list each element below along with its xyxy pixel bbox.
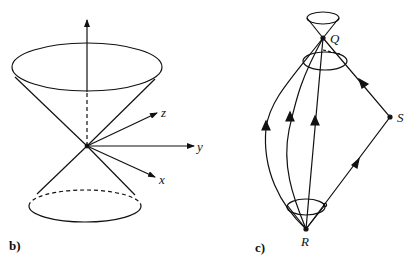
light-cone-diagram [12, 20, 194, 222]
past-cone-right-edge [87, 146, 135, 195]
panel-label-c: c) [255, 240, 265, 255]
arrow-s-to-q [359, 79, 368, 88]
arrow-straight-path [311, 116, 319, 125]
worldline-diagram [262, 12, 392, 231]
q-future-cone-rim [307, 12, 339, 24]
event-r-label: R [300, 234, 309, 249]
worldline-via-s [306, 38, 390, 229]
x-axis-label: x [158, 172, 165, 187]
panel-label-b: b) [9, 238, 21, 253]
event-s-label: S [397, 110, 404, 125]
y-axis-label: y [195, 139, 203, 154]
event-q-label: Q [330, 31, 340, 46]
past-cone-rim-back [29, 190, 141, 206]
q-future-cone-left [307, 18, 323, 38]
event-s-dot [388, 115, 392, 119]
z-axis-label: z [160, 105, 166, 120]
future-cone-left-edge [15, 77, 87, 146]
past-cone-rim-front [29, 206, 141, 222]
figure-canvas: z y x b) Q S R c) [0, 0, 411, 264]
origin-event-dot [85, 144, 89, 148]
r-future-cone-left [287, 205, 306, 229]
z-axis-arrow [87, 113, 157, 146]
past-cone-left-edge [37, 146, 87, 194]
x-axis-arrow [87, 146, 155, 177]
arrow-left-path [262, 121, 270, 130]
